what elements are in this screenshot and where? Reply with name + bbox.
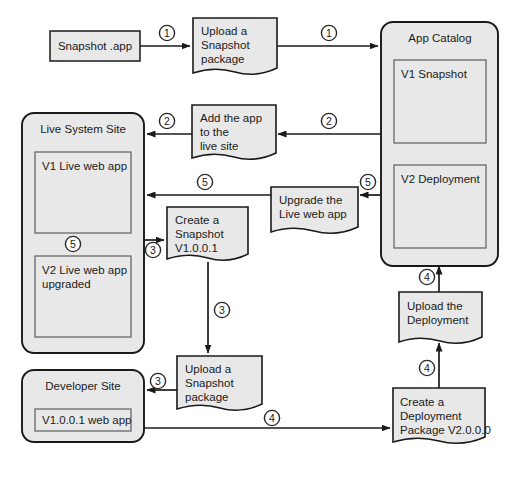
create-snapshot-v1001-line3: V1.0.0.1	[175, 242, 218, 254]
step-badge-number: 5	[70, 238, 76, 250]
step-badge-number: 5	[365, 176, 371, 188]
step-badge-number: 2	[164, 115, 170, 127]
container-live-system-site[interactable]: Live System Site V1 Live web app V2 Live…	[22, 113, 144, 353]
v2-live-web-app-label-line1: V2 Live web app	[42, 264, 127, 276]
container-app-catalog[interactable]: App Catalog V1 Snapshot V2 Deployment	[381, 22, 498, 266]
upload-snapshot-package-bottom-line1: Upload a	[185, 363, 232, 375]
badge-4-c-badge: 4	[264, 410, 279, 425]
step-badge-number: 1	[164, 27, 170, 39]
add-app-to-live-site-line1: Add the app	[200, 112, 262, 124]
badge-5-c-badge: 5	[65, 236, 80, 251]
badge-2-b-badge: 2	[321, 113, 336, 128]
node-create-deployment-package-v2000[interactable]: Create a Deployment Package V2.0.0.0	[393, 388, 491, 443]
badge-4-a-badge: 4	[419, 269, 434, 284]
upgrade-live-web-app-line2: Live web app	[279, 208, 347, 220]
node-upload-snapshot-package-bottom[interactable]: Upload a Snapshot package	[177, 356, 262, 410]
upload-the-deployment-line2: Deployment	[407, 314, 469, 326]
v1-live-web-app-label: V1 Live web app	[42, 160, 127, 172]
badge-3-a-badge: 3	[145, 242, 160, 257]
badge-1-b-badge: 1	[321, 25, 336, 40]
upload-snapshot-package-bottom-line2: Snapshot	[185, 377, 234, 389]
node-upload-snapshot-package-top[interactable]: Upload a Snapshot package	[193, 18, 277, 74]
step-badge-number: 4	[269, 412, 275, 424]
badge-3-b-badge: 3	[214, 302, 229, 317]
add-app-to-live-site-line2: to the	[200, 126, 229, 138]
container-developer-site[interactable]: Developer Site V1.0.0.1 web app	[22, 370, 144, 442]
node-upgrade-live-web-app[interactable]: Upgrade the Live web app	[271, 187, 358, 233]
badge-4-b-badge: 4	[419, 360, 434, 375]
step-badge-number: 3	[219, 304, 225, 316]
node-snapshot-app[interactable]: Snapshot .app	[50, 31, 140, 61]
upload-the-deployment-line1: Upload the	[407, 300, 463, 312]
node-add-app-to-live-site[interactable]: Add the app to the live site	[192, 105, 276, 159]
live-system-site-title: Live System Site	[40, 123, 126, 135]
step-badge-number: 5	[202, 176, 208, 188]
upload-snapshot-package-top-line3: package	[201, 53, 244, 65]
badge-5-b-badge: 5	[360, 174, 375, 189]
badge-2-a-badge: 2	[159, 113, 174, 128]
upload-snapshot-package-top-line2: Snapshot	[201, 39, 250, 51]
app-catalog-title: App Catalog	[408, 32, 471, 44]
step-badge-number: 3	[150, 244, 156, 256]
v1001-web-app-label: V1.0.0.1 web app	[42, 414, 132, 426]
create-snapshot-v1001-line2: Snapshot	[175, 228, 224, 240]
step-badge-number: 4	[424, 271, 430, 283]
diagram-canvas: Live System Site V1 Live web app V2 Live…	[0, 0, 514, 477]
create-deployment-package-v2000-line3: Package V2.0.0.0	[400, 424, 491, 436]
badge-3-c-badge: 3	[150, 373, 165, 388]
badge-1-a-badge: 1	[159, 25, 174, 40]
v2-deployment-label: V2 Deployment	[401, 173, 480, 185]
upload-snapshot-package-bottom-line3: package	[185, 391, 228, 403]
node-upload-the-deployment[interactable]: Upload the Deployment	[399, 292, 482, 343]
node-create-snapshot-v1001[interactable]: Create a Snapshot V1.0.0.1	[167, 207, 248, 260]
create-deployment-package-v2000-line1: Create a	[400, 396, 445, 408]
step-badge-number: 4	[424, 362, 430, 374]
step-badge-number: 3	[155, 375, 161, 387]
create-snapshot-v1001-line1: Create a	[175, 214, 220, 226]
developer-site-title: Developer Site	[45, 380, 120, 392]
badge-5-a-badge: 5	[197, 174, 212, 189]
step-badge-number: 2	[326, 115, 332, 127]
v1-snapshot-label: V1 Snapshot	[401, 68, 468, 80]
v2-live-web-app-label-line2: upgraded	[42, 278, 91, 290]
add-app-to-live-site-line3: live site	[200, 140, 238, 152]
upgrade-live-web-app-line1: Upgrade the	[279, 194, 342, 206]
upload-snapshot-package-top-line1: Upload a	[201, 25, 248, 37]
create-deployment-package-v2000-line2: Deployment	[400, 410, 462, 422]
workflow-diagram: Live System Site V1 Live web app V2 Live…	[0, 0, 514, 477]
snapshot-app-label: Snapshot .app	[58, 40, 132, 52]
step-badge-number: 1	[326, 27, 332, 39]
